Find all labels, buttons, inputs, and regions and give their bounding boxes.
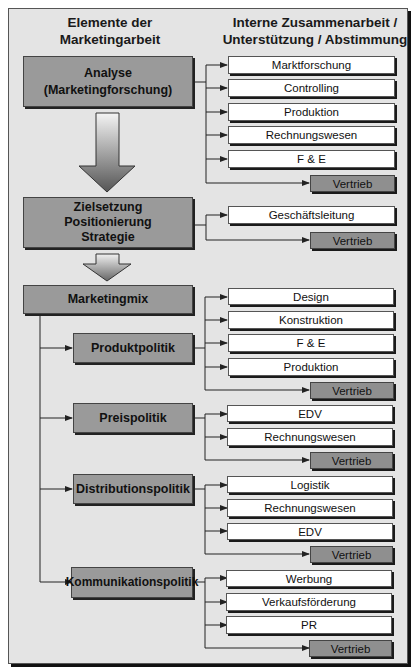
stage-zielsetzung-line1: Zielsetzung <box>74 200 143 215</box>
partner-vertrieb: Vertrieb <box>310 382 394 399</box>
stage-zielsetzung-line2: Positionierung <box>64 215 152 230</box>
partner-pr: PR <box>226 616 392 634</box>
mix-distributionspolitik: Distributionspolitik <box>73 474 193 504</box>
partner-rechnungswesen: Rechnungswesen <box>227 428 393 446</box>
partner-verkaufsfoerderung: Verkaufsförderung <box>226 593 392 611</box>
partner-controlling: Controlling <box>228 79 395 97</box>
partner-marktforschung: Marktforschung <box>228 56 395 74</box>
stage-analyse: Analyse (Marketingforschung) <box>23 56 193 107</box>
partner-logistik: Logistik <box>227 476 393 493</box>
stage-analyse-line2: (Marketingforschung) <box>44 82 172 99</box>
partner-vertrieb: Vertrieb <box>309 640 392 657</box>
partner-edv: EDV <box>227 523 393 540</box>
partner-rechnungswesen: Rechnungswesen <box>227 499 393 517</box>
partner-f-und-e: F & E <box>228 334 394 352</box>
mix-kommunikationspolitik: Kommunikationspolitik <box>71 567 193 598</box>
stage-analyse-line1: Analyse <box>84 65 132 82</box>
partner-konstruktion: Konstruktion <box>228 311 394 329</box>
mix-produktpolitik: Produktpolitik <box>73 333 193 363</box>
partner-werbung: Werbung <box>226 570 392 587</box>
partner-produktion: Produktion <box>228 103 395 121</box>
down-arrow-large-icon <box>79 113 135 192</box>
partner-f-und-e: F & E <box>228 150 395 168</box>
partner-vertrieb: Vertrieb <box>310 546 393 563</box>
stage-zielsetzung: Zielsetzung Positionierung Strategie <box>23 197 193 248</box>
partner-design: Design <box>228 288 394 305</box>
partner-rechnungswesen: Rechnungswesen <box>228 126 395 144</box>
partner-produktion: Produktion <box>228 358 394 376</box>
partner-geschaeftsleitung: Geschäftsleitung <box>228 206 395 224</box>
down-arrow-small-icon <box>83 254 131 281</box>
partner-vertrieb: Vertrieb <box>310 232 395 249</box>
partner-vertrieb: Vertrieb <box>310 175 395 192</box>
stage-marketingmix: Marketingmix <box>23 285 193 314</box>
partner-vertrieb: Vertrieb <box>310 452 393 469</box>
partner-edv: EDV <box>227 405 393 422</box>
mix-preispolitik: Preispolitik <box>73 403 193 433</box>
stage-zielsetzung-line3: Strategie <box>81 230 135 245</box>
